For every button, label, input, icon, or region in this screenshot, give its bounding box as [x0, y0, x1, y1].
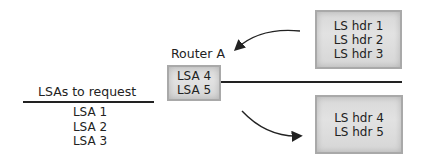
- incoming-arrow-icon: [236, 30, 300, 49]
- router-a-box: LSA 4 LSA 5: [167, 65, 221, 101]
- router-title: Router A: [171, 46, 225, 61]
- header-entry: LS hdr 5: [334, 125, 384, 139]
- request-list-item: LSA 3: [55, 134, 125, 149]
- request-list-item: LSA 2: [55, 120, 125, 135]
- incoming-headers-box: LS hdr 1 LS hdr 2 LS hdr 3: [315, 10, 402, 69]
- header-entry: LS hdr 3: [334, 47, 384, 61]
- header-entry: LS hdr 4: [334, 111, 384, 125]
- router-entry: LSA 5: [177, 83, 211, 97]
- request-list-underline: [23, 101, 154, 103]
- header-entry: LS hdr 1: [334, 19, 384, 33]
- outgoing-headers-box: LS hdr 4 LS hdr 5: [315, 95, 403, 154]
- request-list: LSA 1 LSA 2 LSA 3: [55, 105, 125, 149]
- outgoing-arrow-icon: [242, 111, 300, 136]
- network-link-line: [221, 81, 402, 83]
- request-list-title: LSAs to request: [38, 84, 136, 99]
- header-entry: LS hdr 2: [334, 33, 384, 47]
- router-entry: LSA 4: [177, 69, 211, 83]
- request-list-item: LSA 1: [55, 105, 125, 120]
